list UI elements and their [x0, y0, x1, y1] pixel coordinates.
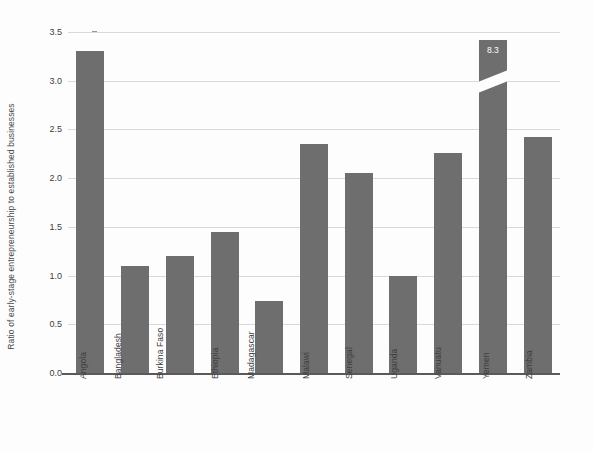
axis-break-marker	[476, 69, 510, 94]
plot-area: 8.3	[68, 32, 560, 373]
x-tick-label: Uganda	[389, 349, 399, 379]
y-tick-label: 2.5	[36, 124, 62, 134]
bar-malawi	[300, 144, 328, 373]
bar-senegal	[345, 173, 373, 373]
bar-yemen: 8.3	[479, 40, 507, 373]
x-tick-label: Malawi	[301, 352, 311, 379]
bar-burkina-faso	[166, 256, 194, 373]
x-tick-label: Vanuatu	[433, 347, 443, 379]
bar-zambia	[524, 137, 552, 373]
x-tick-label: Ethiopia	[210, 347, 220, 379]
y-tick-label: 0.0	[36, 368, 62, 378]
y-tick-label: 2.0	[36, 173, 62, 183]
x-tick-label: Angola	[78, 352, 88, 379]
bar-chart: Ratio of early-stage entrepreneurship to…	[0, 0, 593, 453]
x-axis-labels: AngolaBangladeshBurkina FasoEthiopiaMada…	[68, 375, 560, 453]
x-tick-label: Burkina Faso	[155, 328, 165, 379]
y-axis-title: Ratio of early-stage entrepreneurship to…	[0, 0, 22, 453]
bar-bangladesh	[121, 266, 149, 373]
y-tick-label: 1.5	[36, 222, 62, 232]
x-tick-label: Senegal	[344, 347, 354, 379]
y-tick-label: 0.5	[36, 319, 62, 329]
bar-vanuatu	[434, 153, 462, 373]
x-tick-label: Madagascar	[246, 331, 256, 379]
bar-madagascar	[255, 301, 283, 373]
x-tick-label: Bangladesh	[113, 333, 123, 379]
x-tick-label: Zambia	[524, 350, 534, 379]
y-axis-ticks: 0.00.51.01.52.02.53.03.5	[30, 32, 62, 373]
y-tick-label: 1.0	[36, 271, 62, 281]
bar-angola	[76, 51, 104, 373]
bar-value-label: 8.3	[479, 45, 507, 55]
y-tick-label: 3.5	[36, 27, 62, 37]
x-tick-label: Yemen	[481, 352, 491, 379]
gridline	[68, 32, 560, 33]
y-tick-label: 3.0	[36, 76, 62, 86]
